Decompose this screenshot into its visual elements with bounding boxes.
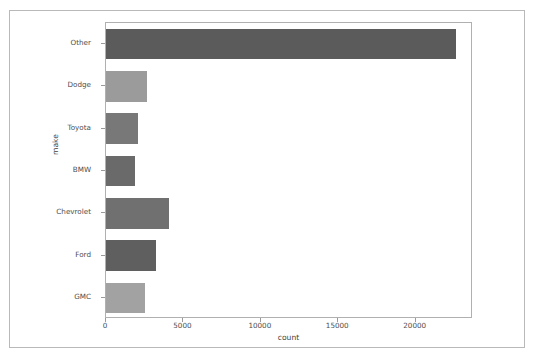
x-tick-label-5000: 5000 xyxy=(173,322,191,329)
x-axis-label: count xyxy=(105,334,472,342)
x-axis-tick-labels: 05000100001500020000 xyxy=(0,0,534,361)
x-tick-label-10000: 10000 xyxy=(248,322,271,329)
y-axis-label: make xyxy=(52,134,60,155)
x-tick-label-20000: 20000 xyxy=(403,322,426,329)
x-tick-label-15000: 15000 xyxy=(326,322,349,329)
x-tick-label-0: 0 xyxy=(103,322,108,329)
figure-canvas: OtherDodgeToyotaBMWChevroletFordGMC 0500… xyxy=(0,0,534,361)
